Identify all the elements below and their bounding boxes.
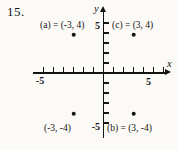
x-axis-tick [163, 67, 164, 73]
x-axis-tick-label-5: 5 [142, 77, 155, 87]
x-axis-tick [53, 67, 54, 73]
x-axis-tick [123, 67, 124, 73]
y-axis-arrow-icon [100, 6, 106, 12]
y-axis-tick [103, 92, 109, 93]
x-axis-tick [63, 67, 64, 73]
point-label-b: (b) = (3, -4) [107, 123, 152, 133]
x-axis-tick [73, 67, 74, 73]
x-axis-tick [93, 67, 94, 73]
y-axis-label: y [94, 4, 99, 15]
y-axis-tick [103, 102, 109, 103]
y-axis-tick [103, 112, 109, 113]
x-axis-tick [153, 67, 154, 73]
x-axis-tick-label-neg5: -5 [32, 76, 48, 86]
data-point-c [131, 32, 136, 37]
coordinate-plane: y x 5 -5 -5 5 (a) = (-3, 4) (c) = (3, 4)… [0, 0, 178, 150]
data-point [71, 111, 76, 116]
y-axis-tick [103, 22, 109, 23]
x-axis-tick [143, 67, 144, 73]
point-label-c: (c) = (3, 4) [112, 20, 153, 30]
x-axis-tick [113, 67, 114, 73]
y-axis-tick-label-neg5: -5 [82, 122, 100, 132]
x-axis-tick [43, 67, 44, 73]
textbook-figure: 15. y x 5 -5 -5 5 (a) = (-3, 4) (c) = (3… [0, 0, 178, 150]
x-axis-tick [83, 67, 84, 73]
x-axis-arrow-icon [165, 69, 171, 75]
y-axis [103, 12, 104, 138]
y-axis-tick [103, 32, 109, 33]
data-point-a [71, 32, 76, 37]
point-label-a: (a) = (-3, 4) [40, 20, 84, 30]
y-axis-tick [103, 62, 109, 63]
y-axis-tick [103, 42, 109, 43]
y-axis-tick-label-5: 5 [88, 21, 100, 31]
data-point-b [131, 111, 136, 116]
y-axis-tick [103, 122, 109, 123]
point-label-unnamed: (-3, -4) [44, 123, 71, 133]
y-axis-tick [103, 82, 109, 83]
x-axis-label: x [167, 59, 172, 70]
x-axis-tick [133, 67, 134, 73]
y-axis-tick [103, 52, 109, 53]
